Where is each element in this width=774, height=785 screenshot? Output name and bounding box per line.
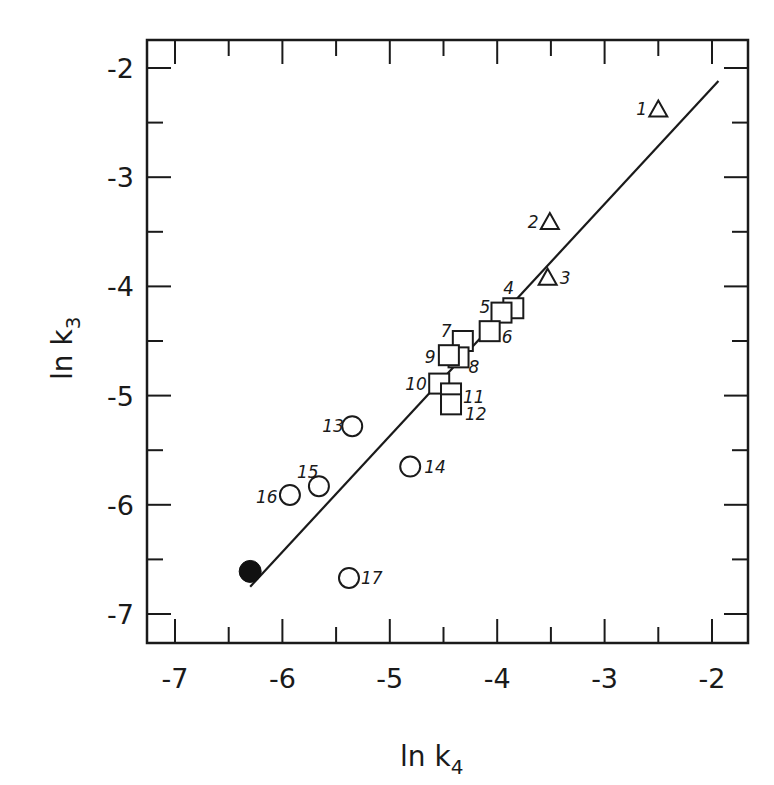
point-label: 6 [502, 327, 513, 347]
square-marker [441, 394, 461, 414]
point-label: 2 [528, 212, 539, 232]
circle-marker [339, 568, 359, 588]
point-label: 12 [465, 404, 487, 424]
data-point: 13 [322, 416, 362, 436]
filled-circle-marker [239, 560, 261, 582]
square-marker [491, 303, 511, 323]
x-tick-label: -3 [591, 663, 618, 694]
point-label: 17 [361, 568, 383, 588]
x-tick-label: -5 [376, 663, 403, 694]
y-tick-label: -7 [107, 599, 134, 630]
point-label: 13 [322, 416, 344, 436]
y-tick-label: -6 [107, 490, 134, 521]
point-label: 5 [479, 297, 490, 317]
y-axis-label: ln k3 [46, 317, 85, 380]
x-axis-title: ln k4 [400, 740, 463, 779]
y-tick-label: -4 [107, 271, 134, 302]
x-tick-label: -4 [484, 663, 511, 694]
y-tick-label: -5 [107, 381, 134, 412]
point-label: 10 [405, 374, 427, 394]
point-label: 14 [424, 457, 446, 477]
y-tick-label: -2 [107, 53, 134, 84]
triangle-marker [649, 100, 667, 116]
data-point [239, 560, 261, 582]
y-axis-title: ln k3 [46, 317, 85, 380]
point-label: 8 [469, 357, 480, 377]
scatter-chart: -7-6-5-4-3-2-2-3-4-5-6-7 123456789101112… [0, 0, 774, 785]
point-label: 3 [560, 268, 571, 288]
data-point: 14 [400, 457, 446, 477]
x-axis-label: ln k4 [400, 740, 463, 779]
data-point: 16 [256, 485, 300, 507]
point-label: 15 [297, 462, 319, 482]
point-label: 7 [441, 321, 452, 341]
point-label: 1 [636, 99, 647, 119]
plot-frame [147, 40, 748, 643]
axis-ticks [147, 40, 748, 643]
x-tick-label: -7 [162, 663, 189, 694]
circle-marker [280, 485, 300, 505]
data-point: 6 [480, 321, 513, 347]
x-tick-label: -6 [269, 663, 296, 694]
y-tick-label: -3 [107, 162, 134, 193]
circle-marker [400, 457, 420, 477]
data-point: 15 [297, 462, 329, 496]
circle-marker [342, 416, 362, 436]
point-label: 16 [256, 487, 278, 507]
data-point: 1 [636, 99, 667, 119]
data-points: 1234567891011121314151617 [239, 99, 667, 587]
data-point: 17 [339, 568, 383, 588]
point-label: 9 [425, 347, 436, 367]
square-marker [439, 345, 459, 365]
x-tick-label: -2 [699, 663, 726, 694]
triangle-marker [541, 213, 559, 229]
square-marker [480, 321, 500, 341]
data-point: 2 [528, 212, 559, 232]
data-point: 9 [425, 345, 459, 367]
point-label: 4 [503, 278, 514, 298]
